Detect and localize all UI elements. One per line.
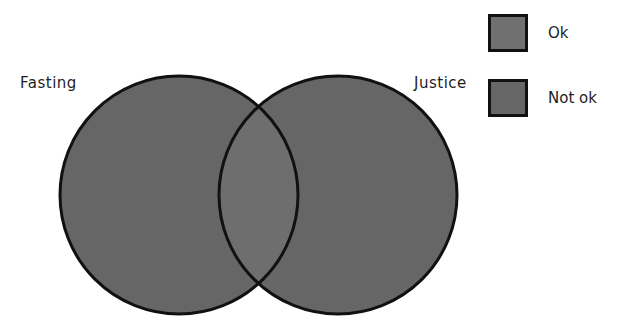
- justice-label: Justice: [414, 74, 467, 92]
- legend-label-ok: Ok: [548, 24, 569, 42]
- legend-swatch-not-ok: [488, 79, 528, 117]
- fasting-label: Fasting: [20, 74, 77, 92]
- legend-item-not-ok: Not ok: [488, 79, 597, 117]
- legend-label-not-ok: Not ok: [548, 89, 597, 107]
- legend-swatch-ok: [488, 14, 528, 52]
- legend-item-ok: Ok: [488, 14, 569, 52]
